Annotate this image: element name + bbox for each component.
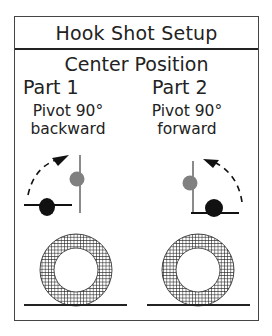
hatched-ring-icon [47, 241, 105, 299]
diagram-artwork [0, 0, 272, 336]
part-2-pivot-figure [183, 159, 243, 217]
gray-dot-icon [183, 176, 198, 191]
hatched-ring-icon [169, 241, 227, 299]
black-dot-icon [205, 199, 223, 217]
arrowhead-icon [52, 155, 69, 166]
part-2-ring [147, 234, 250, 306]
gray-dot-icon [70, 172, 85, 187]
part-1-pivot-figure [24, 155, 85, 216]
part-1-ring [24, 234, 127, 306]
black-dot-icon [39, 198, 55, 216]
backward-arc-arrow-icon [28, 160, 56, 195]
forward-arc-arrow-icon [216, 163, 242, 202]
